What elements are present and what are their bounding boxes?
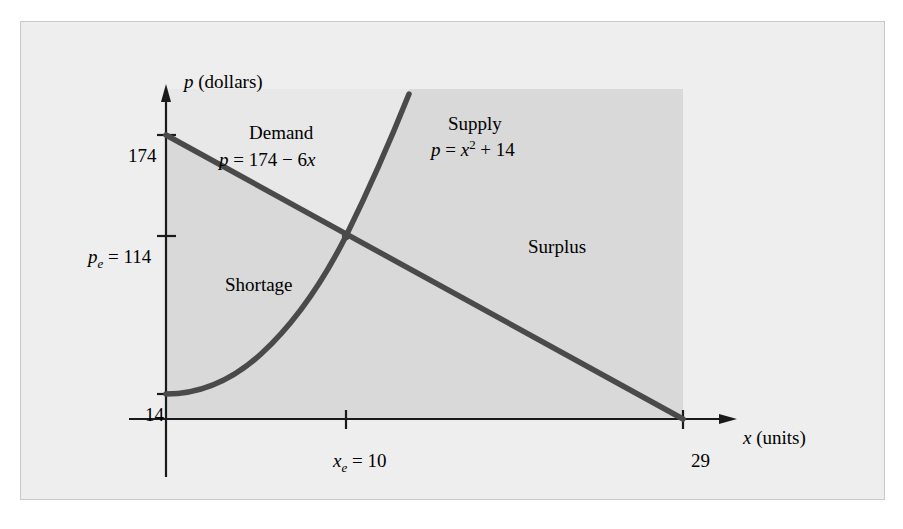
equilibrium-point xyxy=(342,232,350,240)
y-tick-label-14: 14 xyxy=(145,405,164,424)
surplus-region-label: Surplus xyxy=(528,237,586,256)
shortage-region-label: Shortage xyxy=(225,275,293,294)
supply-equation-label: p = x2 + 14 xyxy=(431,140,515,159)
figure-panel: p (dollars) x (units) Demand p = 174 − 6… xyxy=(20,21,885,500)
y-tick-label-174: 174 xyxy=(128,146,157,165)
y-axis-title: p (dollars) xyxy=(184,72,263,91)
x-axis-title: x (units) xyxy=(743,428,806,447)
y-tick-label-equilibrium-price: pe = 114 xyxy=(88,247,151,266)
supply-curve-label: Supply xyxy=(448,114,502,133)
demand-curve-label: Demand xyxy=(249,123,313,142)
x-tick-label-29: 29 xyxy=(691,451,710,470)
x-tick-label-equilibrium-quantity: xe = 10 xyxy=(333,451,386,470)
demand-equation-label: p = 174 − 6x xyxy=(219,150,315,169)
